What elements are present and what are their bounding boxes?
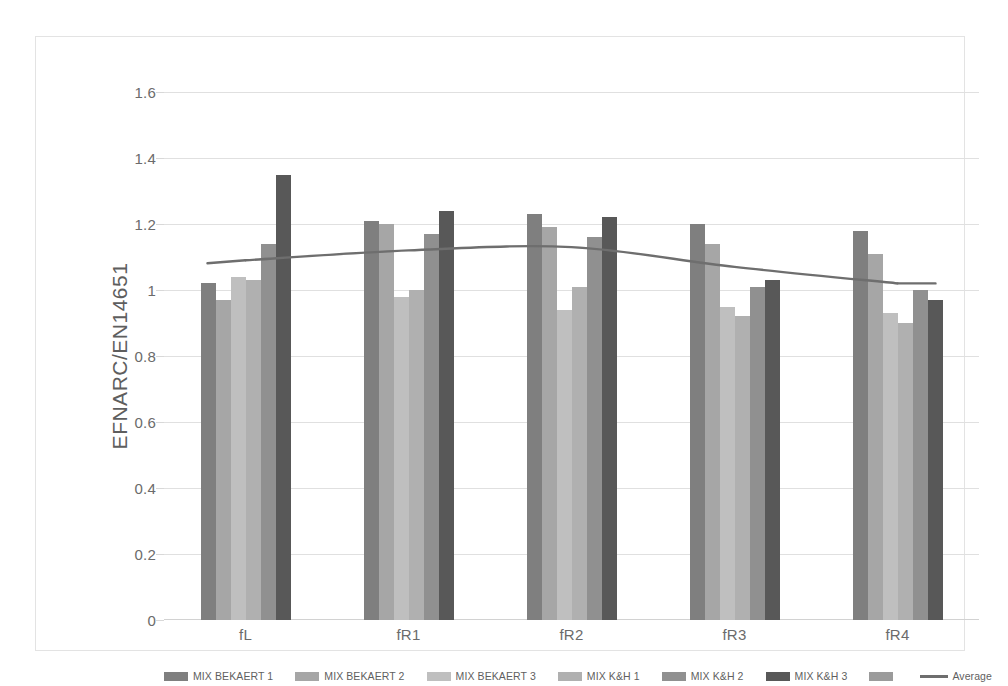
bar[interactable] [216, 300, 231, 620]
bar[interactable] [720, 307, 735, 621]
bar-group: fL [164, 92, 327, 620]
bar[interactable] [765, 280, 780, 620]
bar[interactable] [261, 244, 276, 620]
bar[interactable] [750, 287, 765, 620]
bar-group: fR3 [653, 92, 816, 620]
legend-swatch-icon [662, 672, 686, 681]
bar[interactable] [246, 280, 261, 620]
legend-item[interactable]: MIX K&H 1 [558, 670, 640, 682]
legend-label: MIX K&H 2 [691, 670, 744, 682]
legend-item[interactable]: MIX K&H 3 [766, 670, 848, 682]
bar-stack [490, 92, 653, 620]
bar[interactable] [364, 221, 379, 620]
bar[interactable] [424, 234, 439, 620]
bar-stack [653, 92, 816, 620]
legend-item[interactable]: MIX BEKAERT 3 [427, 670, 536, 682]
y-axis-tick-labels: 00.20.40.60.811.21.41.6 [114, 92, 156, 620]
bar[interactable] [394, 297, 409, 620]
legend-swatch-icon [558, 672, 582, 681]
bar[interactable] [231, 277, 246, 620]
y-axis-tick-mark [156, 92, 164, 93]
x-axis-tick-label: fR2 [490, 626, 653, 643]
chart-root: EFNARC/EN14651 00.20.40.60.811.21.41.6 f… [0, 0, 1008, 686]
y-axis-tick-mark [156, 620, 164, 621]
y-axis-tick-label: 0.6 [135, 414, 156, 431]
plot-area: fLfR1fR2fR3fR4 [164, 92, 979, 620]
bar[interactable] [705, 244, 720, 620]
bar[interactable] [928, 300, 943, 620]
y-axis-tick-mark [156, 488, 164, 489]
bar[interactable] [542, 227, 557, 620]
bar-stack [164, 92, 327, 620]
y-axis-tick-label: 0 [147, 612, 156, 629]
y-axis-tick-mark [156, 356, 164, 357]
bar[interactable] [527, 214, 542, 620]
y-axis-title-host: EFNARC/EN14651 [88, 92, 112, 620]
legend-swatch-icon [766, 672, 790, 681]
bar[interactable] [587, 237, 602, 620]
legend-label: MIX K&H 3 [795, 670, 848, 682]
y-axis-tick-label: 0.4 [135, 480, 156, 497]
legend-item[interactable] [869, 672, 898, 681]
y-axis-tick-label: 0.2 [135, 546, 156, 563]
y-axis-tick-label: 1.6 [135, 84, 156, 101]
legend-label: MIX BEKAERT 3 [456, 670, 536, 682]
legend-item[interactable]: MIX BEKAERT 1 [164, 670, 273, 682]
bar-stack [816, 92, 979, 620]
chart-legend: MIX BEKAERT 1MIX BEKAERT 2MIX BEKAERT 3M… [164, 666, 964, 686]
x-axis-tick-label: fR3 [653, 626, 816, 643]
legend-swatch-icon [295, 672, 319, 681]
bar-group: fR1 [327, 92, 490, 620]
bar[interactable] [853, 231, 868, 620]
legend-item[interactable]: Average [920, 670, 992, 682]
y-axis-tick-mark [156, 290, 164, 291]
y-axis-tick-mark [156, 554, 164, 555]
bar-groups: fLfR1fR2fR3fR4 [164, 92, 979, 620]
bar[interactable] [439, 211, 454, 620]
y-axis-tick-label: 1 [147, 282, 156, 299]
legend-item[interactable]: MIX K&H 2 [662, 670, 744, 682]
bar[interactable] [557, 310, 572, 620]
x-axis-tick-label: fR4 [816, 626, 979, 643]
legend-label: MIX BEKAERT 2 [324, 670, 404, 682]
bar-stack [327, 92, 490, 620]
bar-group: fR2 [490, 92, 653, 620]
bar-group: fR4 [816, 92, 979, 620]
legend-line-icon [920, 675, 948, 678]
bar[interactable] [913, 290, 928, 620]
bar[interactable] [379, 224, 394, 620]
legend-label: MIX BEKAERT 1 [193, 670, 273, 682]
bar[interactable] [868, 254, 883, 620]
bar[interactable] [735, 316, 750, 620]
y-axis-tick-mark [156, 422, 164, 423]
bar[interactable] [898, 323, 913, 620]
y-axis-tick-mark [156, 224, 164, 225]
y-axis-tick-label: 1.2 [135, 216, 156, 233]
legend-label: Average [952, 670, 992, 682]
y-axis-tick-label: 1.4 [135, 150, 156, 167]
legend-swatch-icon [164, 672, 188, 681]
bar[interactable] [276, 175, 291, 621]
legend-swatch-icon [427, 672, 451, 681]
legend-item[interactable]: MIX BEKAERT 2 [295, 670, 404, 682]
x-axis-tick-label: fR1 [327, 626, 490, 643]
x-axis-tick-label: fL [164, 626, 327, 643]
bar[interactable] [883, 313, 898, 620]
bar[interactable] [690, 224, 705, 620]
legend-label: MIX K&H 1 [587, 670, 640, 682]
bar[interactable] [572, 287, 587, 620]
bar[interactable] [409, 290, 424, 620]
legend-swatch-icon [869, 672, 893, 681]
chart-frame: EFNARC/EN14651 00.20.40.60.811.21.41.6 f… [35, 36, 965, 651]
bar[interactable] [602, 217, 617, 620]
y-axis-tick-mark [156, 158, 164, 159]
y-axis-tick-label: 0.8 [135, 348, 156, 365]
bar[interactable] [201, 283, 216, 620]
